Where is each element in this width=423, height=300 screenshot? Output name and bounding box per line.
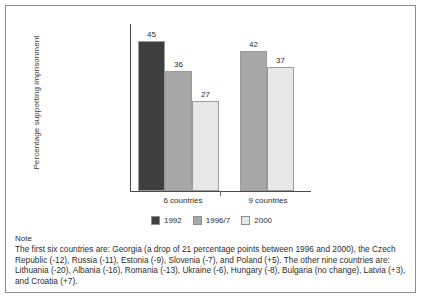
legend-label: 1992 (164, 216, 182, 225)
legend-swatch-icon (151, 216, 160, 225)
legend-swatch-icon (193, 216, 202, 225)
bar-value-label: 27 (189, 90, 223, 99)
x-axis-category-1: 9 countries (223, 196, 313, 205)
bar-1996-7-9 (240, 51, 267, 191)
legend-item-2000: 2000 (241, 216, 272, 225)
chart-legend: 19921996/72000 (6, 212, 417, 228)
note-text: The first six countries are: Georgia (a … (15, 244, 409, 286)
bar-value-label: 36 (162, 60, 196, 69)
figure-note: Note The first six countries are: Georgi… (15, 234, 409, 286)
figure-frame: Percentage supporting imprisonment 6 cou… (5, 5, 416, 293)
bar-1996-7-6 (165, 71, 192, 191)
bar-2000-6 (192, 101, 219, 191)
bar-value-label: 42 (237, 40, 271, 49)
legend-item-1992: 1992 (151, 216, 182, 225)
legend-item-1996-7: 1996/7 (193, 216, 230, 225)
note-heading: Note (15, 234, 409, 243)
legend-swatch-icon (241, 216, 250, 225)
bar-2000-9 (267, 67, 294, 191)
x-axis-category-0: 6 countries (138, 196, 228, 205)
bar-series-container (6, 24, 417, 191)
chart-plot-area: Percentage supporting imprisonment 6 cou… (6, 6, 417, 230)
figure: Percentage supporting imprisonment 6 cou… (0, 0, 423, 300)
legend-label: 1996/7 (206, 216, 230, 225)
bar-value-label: 45 (135, 30, 169, 39)
bar-value-label: 37 (264, 56, 298, 65)
legend-label: 2000 (254, 216, 272, 225)
